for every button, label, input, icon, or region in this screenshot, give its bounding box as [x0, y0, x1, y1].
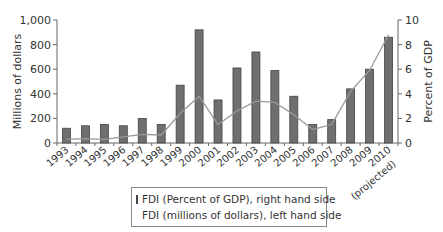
left-tick-label: 200 — [30, 112, 51, 125]
right-tick-label: 6 — [405, 63, 412, 76]
bar — [366, 69, 374, 143]
bar — [138, 118, 146, 143]
chart-legend: FDI (Percent of GDP), right hand side FD… — [131, 187, 327, 227]
bar — [119, 126, 127, 143]
bar — [62, 128, 70, 143]
legend-line-label: FDI (millions of dollars), left hand sid… — [142, 207, 341, 223]
left-tick-label: 0 — [44, 137, 51, 150]
right-tick-label: 0 — [405, 137, 412, 150]
bar-swatch-icon — [136, 195, 138, 204]
left-tick-label: 600 — [30, 63, 51, 76]
bar — [195, 30, 203, 143]
right-axis-title: Percent of GDP — [422, 40, 435, 123]
right-tick-label: 8 — [405, 39, 412, 52]
right-tick-label: 2 — [405, 112, 412, 125]
bar — [81, 126, 89, 143]
left-tick-label: 800 — [30, 39, 51, 52]
legend-item-bar: FDI (Percent of GDP), right hand side — [136, 191, 322, 207]
left-axis-title: Millions of dollars — [11, 33, 24, 129]
bar — [385, 37, 393, 143]
legend-bar-label: FDI (Percent of GDP), right hand side — [142, 191, 336, 207]
fdi-line — [66, 35, 388, 140]
right-tick-label: 10 — [405, 14, 419, 27]
legend-item-line: FDI (millions of dollars), left hand sid… — [136, 207, 322, 223]
bar — [100, 125, 108, 143]
bar — [252, 52, 260, 143]
left-tick-label: 1,000 — [20, 14, 52, 27]
bar — [328, 120, 336, 143]
bar — [233, 68, 241, 143]
bar — [271, 70, 279, 143]
left-tick-label: 400 — [30, 88, 51, 101]
bar — [290, 96, 298, 143]
bar — [157, 125, 165, 143]
right-tick-label: 4 — [405, 88, 412, 101]
